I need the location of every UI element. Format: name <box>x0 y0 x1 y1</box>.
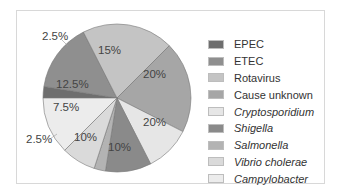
legend-item-epec: EPEC <box>208 36 314 53</box>
legend-item-cause-unknown: Cause unknown <box>208 86 314 103</box>
legend-item-vibrio-cholerae: Vibrio cholerae <box>208 154 314 171</box>
legend-swatch <box>208 141 224 150</box>
legend-swatch <box>208 40 224 49</box>
legend-label: Cryptosporidium <box>234 106 314 118</box>
legend-swatch <box>208 174 224 183</box>
slice-label-cause-unknown: 20% <box>143 116 166 128</box>
legend-swatch <box>208 124 224 133</box>
slice-label-campylobacter: 12.5% <box>56 78 89 90</box>
legend-label: Cause unknown <box>234 89 313 101</box>
slice-label-etec: 15% <box>98 44 121 56</box>
legend-item-campylobacter: Campylobacter <box>208 170 314 187</box>
legend-swatch <box>208 157 224 166</box>
legend-label: Vibrio cholerae <box>234 156 307 168</box>
legend: EPECETECRotavirusCause unknownCryptospor… <box>208 36 314 187</box>
legend-swatch <box>208 90 224 99</box>
legend-item-shigella: Shigella <box>208 120 314 137</box>
legend-label: Shigella <box>234 122 273 134</box>
legend-swatch <box>208 73 224 82</box>
slice-label-shigella: 10% <box>74 131 97 143</box>
legend-label: Campylobacter <box>234 173 308 185</box>
legend-swatch <box>208 57 224 66</box>
slice-label-rotavirus: 20% <box>143 68 166 80</box>
slice-label-salmonella: 2.5% <box>26 133 52 145</box>
slice-label-cryptosporidium: 10% <box>108 141 131 153</box>
legend-item-etec: ETEC <box>208 53 314 70</box>
slice-label-epec: 2.5% <box>42 30 68 42</box>
legend-swatch <box>208 107 224 116</box>
legend-label: EPEC <box>234 38 264 50</box>
legend-item-rotavirus: Rotavirus <box>208 70 314 87</box>
legend-label: ETEC <box>234 55 263 67</box>
legend-label: Rotavirus <box>234 72 280 84</box>
legend-item-salmonella: Salmonella <box>208 137 314 154</box>
slice-label-vibrio: 7.5% <box>53 101 79 113</box>
legend-item-cryptosporidium: Cryptosporidium <box>208 103 314 120</box>
legend-label: Salmonella <box>234 139 288 151</box>
